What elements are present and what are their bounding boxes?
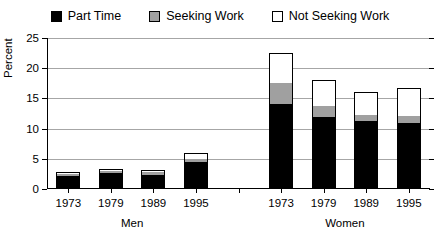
x-axis-label-empty [217,196,260,212]
bar-segment-part-time [99,173,123,189]
legend-label-seeking-work: Seeking Work [166,10,244,22]
y-tick-25 [42,38,47,39]
legend-item-part-time: Part Time [51,10,122,22]
legend-item-not-seeking-work: Not Seeking Work [272,10,390,22]
y-tick-10 [42,129,47,130]
x-axis-label-1995-8: 1995 [388,196,431,212]
x-tick [409,188,410,193]
x-axis-label-1995-3: 1995 [175,196,218,212]
x-tick [324,188,325,193]
y-tick-right-20 [429,68,434,69]
y-tick-right-15 [429,98,434,99]
y-axis-label-0: 0 [33,184,39,194]
x-axis-label-1989-7: 1989 [345,196,388,212]
plot-area [47,38,430,189]
bar-segment-part-time [269,104,293,189]
bar-slot-1973-5 [260,38,303,189]
y-axis-label-25: 25 [26,33,39,43]
x-tick [239,188,240,193]
bar-segment-part-time [354,121,378,189]
bar-slot-1979-6 [302,38,345,189]
x-tick-slot [132,188,175,194]
y-axis-label-10: 10 [26,124,39,134]
bar-segment-seeking-work [397,116,421,123]
stacked-bar [56,172,80,189]
group-label-women: Women [325,216,364,230]
x-axis-labels: 19731979198919951973197919891995 [47,196,430,212]
legend-label-not-seeking-work: Not Seeking Work [289,10,390,22]
x-tick-slot [217,188,260,194]
x-tick-slot [90,188,133,194]
x-tick [68,188,69,193]
bar-segment-part-time [141,175,165,189]
y-tick-20 [42,68,47,69]
bar-segment-seeking-work [312,106,336,117]
bar-series-container [47,38,430,189]
x-axis-label-1973-5: 1973 [260,196,303,212]
x-tick [366,188,367,193]
stacked-bar [184,153,208,189]
y-tick-5 [42,159,47,160]
bar-slot-1973-0 [47,38,90,189]
y-axis-label-15: 15 [26,93,39,103]
chart-legend: Part Time Seeking Work Not Seeking Work [0,6,440,26]
x-tick-slot [345,188,388,194]
bar-segment-not-seeking-work [397,88,421,116]
bar-slot-1989-2 [132,38,175,189]
x-tick [196,188,197,193]
legend-swatch-not-seeking-work [272,11,283,22]
group-labels: MenWomen [47,216,430,234]
y-axis-label-5: 5 [33,154,39,164]
stacked-bar [397,88,421,189]
y-axis-line: 0510152025 [47,38,48,189]
bar-segment-not-seeking-work [269,53,293,83]
y-tick-right-25 [429,38,434,39]
stacked-bar-chart: Part Time Seeking Work Not Seeking Work … [0,0,440,243]
y-axis-title: Percent [2,38,14,78]
bar-segment-not-seeking-work [312,80,336,105]
bar-slot-1989-7 [345,38,388,189]
x-tick [111,188,112,193]
bar-segment-part-time [397,123,421,189]
bar-slot-1979-1 [90,38,133,189]
bar-slot-1995-3 [175,38,218,189]
bar-segment-seeking-work [269,83,293,104]
y-tick-right-10 [429,129,434,130]
x-axis-label-1973-0: 1973 [47,196,90,212]
x-tick-slot [302,188,345,194]
legend-label-part-time: Part Time [68,10,122,22]
x-tick-slot [47,188,90,194]
bar-slot-1995-8 [388,38,431,189]
group-label-men: Men [121,216,143,230]
x-axis-label-1989-2: 1989 [132,196,175,212]
x-axis-label-1979-1: 1979 [90,196,133,212]
x-tick [281,188,282,193]
bar-slot-spacer [217,38,260,189]
x-tick-slot [175,188,218,194]
stacked-bar [141,170,165,189]
x-tick-slot [388,188,431,194]
bar-segment-part-time [184,162,208,189]
x-axis-label-1979-6: 1979 [302,196,345,212]
stacked-bar [312,80,336,189]
y-axis-label-20: 20 [26,63,39,73]
y-tick-15 [42,98,47,99]
legend-swatch-part-time [51,11,62,22]
x-axis-ticks [47,188,430,194]
bar-segment-not-seeking-work [354,92,378,114]
bar-segment-part-time [312,117,336,189]
x-tick-slot [260,188,303,194]
stacked-bar [354,92,378,189]
legend-swatch-seeking-work [149,11,160,22]
x-tick [153,188,154,193]
stacked-bar [269,53,293,189]
stacked-bar [99,169,123,189]
legend-item-seeking-work: Seeking Work [149,10,244,22]
y-tick-right-5 [429,159,434,160]
